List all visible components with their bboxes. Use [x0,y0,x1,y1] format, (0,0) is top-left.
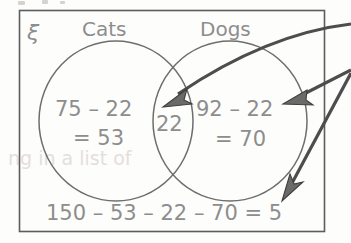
cats-label: Cats [82,17,126,41]
bleed-through-text: ng in a list of [8,147,133,169]
arrow-to-outside [282,73,351,201]
cats-only-expression: 75 – 22 [55,97,132,121]
diagram-canvas: ng in a list of ξ Cats Dogs 75 – 22 = 53… [0,0,351,243]
dogs-only-result: = 70 [215,127,266,151]
cats-only-result: = 53 [73,126,124,150]
dogs-only-expression: 92 – 22 [196,97,273,121]
venn-diagram-figure: ng in a list of ξ Cats Dogs 75 – 22 = 53… [0,0,351,243]
universal-set-symbol: ξ [26,20,40,45]
arrow-to-intersection [163,24,351,107]
outside-region-expression: 150 – 53 – 22 – 70 = 5 [46,201,282,225]
intersection-value: 22 [156,112,183,136]
dogs-label: Dogs [200,17,251,41]
